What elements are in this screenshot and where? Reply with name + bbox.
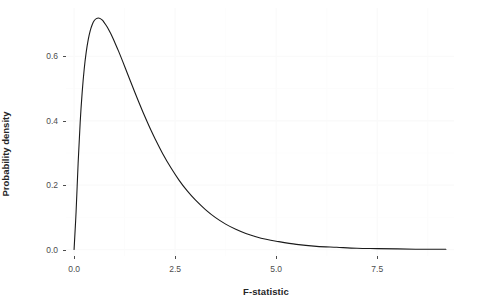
plot-panel [66, 8, 454, 256]
y-axis-title: Probability density [0, 0, 24, 308]
x-tick-mark [175, 256, 176, 259]
density-curve [66, 8, 454, 256]
x-tick-label: 5.0 [270, 264, 282, 274]
y-tick-mark [63, 250, 66, 251]
y-tick-label: 0.6 [46, 51, 58, 61]
x-axis-title: F-statistic [0, 286, 480, 297]
x-tick-label: 7.5 [371, 264, 383, 274]
x-axis-title-text: F-statistic [243, 286, 289, 297]
y-tick-mark [63, 56, 66, 57]
y-tick-label: 0.4 [46, 116, 58, 126]
x-tick-label: 2.5 [169, 264, 181, 274]
x-tick-mark [74, 256, 75, 259]
x-tick-mark [276, 256, 277, 259]
y-tick-label: 0.2 [46, 180, 58, 190]
x-tick-label: 0.0 [68, 264, 80, 274]
y-tick-mark [63, 121, 66, 122]
y-tick-mark [63, 185, 66, 186]
y-tick-label: 0.0 [46, 245, 58, 255]
figure-canvas: 0.00.20.40.6 0.02.55.07.5 F-statistic Pr… [0, 0, 480, 308]
y-axis-title-text: Probability density [0, 112, 11, 197]
x-tick-mark [377, 256, 378, 259]
